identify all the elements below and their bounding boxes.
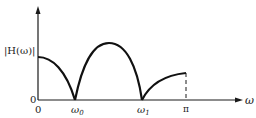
- y-axis-label: |H(ω)|: [4, 45, 35, 57]
- x-tick-pi: π: [183, 104, 189, 114]
- x-tick-zero: 0: [35, 104, 41, 115]
- curve-segment-3: [142, 73, 186, 100]
- x-tick-omega0: ω0: [71, 104, 84, 117]
- magnitude-response-diagram: |H(ω)| 0 0 ω0 ω1 π ω: [0, 0, 256, 118]
- x-axis-arrow-icon: [235, 98, 243, 103]
- curve-segment-2: [75, 43, 142, 100]
- curve-segment-1: [38, 57, 75, 100]
- x-axis-label: ω: [245, 94, 254, 107]
- x-tick-omega1: ω1: [137, 104, 150, 117]
- y-axis-arrow-icon: [36, 6, 41, 14]
